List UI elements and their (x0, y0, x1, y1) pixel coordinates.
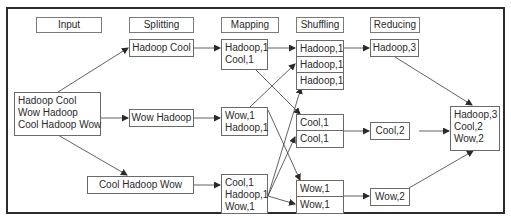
arrow-reduce-hadoop-to-result (395, 57, 472, 105)
arrow-input-to-split-3 (58, 135, 127, 175)
reduce-box-cool: Cool,2 (370, 122, 410, 140)
shuffle-row: Hadoop,1 (297, 41, 343, 57)
map-pair: Cool,1 (225, 54, 264, 66)
map-pair: Wow,1 (225, 110, 264, 122)
arrow-map3-wow (268, 196, 295, 204)
shuffle-row: Hadoop,1 (297, 57, 343, 73)
split-box-2: Wow Hadoop (129, 109, 194, 127)
input-box: Hadoop Cool Wow Hadoop Cool Hadoop Wow (14, 92, 101, 136)
header-splitting: Splitting (129, 17, 194, 33)
header-shuffling: Shuffling (296, 17, 344, 33)
input-line: Wow Hadoop (18, 107, 97, 119)
arrow-map3-cool (268, 137, 295, 196)
shuffle-row: Cool,1 (297, 115, 343, 131)
map-box-2: Wow,1 Hadoop,1 (221, 107, 268, 136)
shuffle-group-wow: Wow,1 Wow,1 (296, 180, 344, 214)
arrow-input-to-split-1 (58, 48, 128, 92)
split-box-1: Hadoop Cool (129, 39, 194, 57)
map-pair: Wow,1 (225, 201, 264, 213)
map-pair: Hadoop,1 (225, 122, 264, 134)
shuffle-row: Cool,1 (297, 131, 343, 147)
shuffle-row: Wow,1 (297, 197, 343, 213)
shuffle-group-cool: Cool,1 Cool,1 (296, 114, 344, 148)
map-pair: Hadoop,1 (225, 189, 264, 201)
arrow-reduce-wow-to-result (409, 151, 473, 188)
split-box-3: Cool Hadoop Wow (87, 176, 194, 194)
reduce-box-wow: Wow,2 (370, 188, 410, 206)
header-input: Input (36, 17, 102, 33)
shuffle-group-hadoop: Hadoop,1 Hadoop,1 Hadoop,1 (296, 40, 344, 90)
final-result-box: Hadoop,3 Cool,2 Wow,2 (450, 106, 500, 151)
reduce-box-hadoop: Hadoop,3 (370, 39, 419, 57)
result-pair: Cool,2 (454, 121, 496, 133)
map-box-1: Hadoop,1 Cool,1 (221, 39, 268, 70)
map-pair: Cool,1 (225, 177, 264, 189)
input-line: Hadoop Cool (18, 95, 97, 107)
map-pair: Hadoop,1 (225, 42, 264, 54)
result-pair: Hadoop,3 (454, 109, 496, 121)
input-line: Cool Hadoop Wow (18, 119, 97, 131)
shuffle-row: Wow,1 (297, 181, 343, 197)
result-pair: Wow,2 (454, 133, 496, 145)
header-mapping: Mapping (221, 17, 279, 33)
header-reducing: Reducing (370, 17, 420, 33)
map-box-3: Cool,1 Hadoop,1 Wow,1 (221, 174, 268, 214)
shuffle-row: Hadoop,1 (297, 73, 343, 89)
